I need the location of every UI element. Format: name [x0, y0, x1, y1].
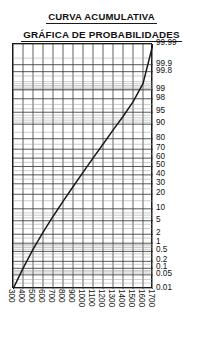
probability-tick-label: 30	[156, 179, 165, 187]
value-tick-label: 800	[57, 289, 65, 303]
probability-tick-label: 10	[156, 204, 165, 212]
chart-grid-and-curve	[13, 44, 153, 289]
value-tick-label: 1300	[107, 289, 115, 307]
value-tick-label: 1000	[77, 289, 85, 307]
value-tick-label: 1700	[147, 289, 155, 307]
plot-area	[12, 43, 152, 288]
probability-tick-label: 0.05	[156, 270, 172, 278]
probability-axis-labels: 99.9999.999.8999895908070605040302010521…	[154, 43, 203, 301]
probability-tick-label: 20	[156, 189, 165, 197]
probability-tick-label: 0.5	[156, 246, 167, 254]
chart-title-line-1: CURVA ACUMULATIVA	[46, 11, 157, 24]
probability-tick-label: 5	[156, 216, 161, 224]
probability-tick-label: 40	[156, 170, 165, 178]
probability-tick-label: 2	[156, 229, 161, 237]
value-tick-label: 1500	[127, 289, 135, 307]
probability-tick-label: 99.8	[156, 67, 172, 75]
value-tick-label: 1200	[97, 289, 105, 307]
value-tick-label: 1600	[137, 289, 145, 307]
probability-tick-label: 99.99	[156, 39, 177, 47]
value-tick-label: 1400	[117, 289, 125, 307]
value-axis-labels: 3004005006007008009001000110012001300140…	[12, 289, 162, 341]
value-tick-label: 500	[27, 289, 35, 303]
probability-tick-label: 80	[156, 134, 165, 142]
probability-chart-page: CURVA ACUMULATIVA GRÁFICA DE PROBABILIDA…	[0, 0, 203, 341]
chart-title: CURVA ACUMULATIVA GRÁFICA DE PROBABILIDA…	[0, 6, 203, 42]
probability-tick-label: 90	[156, 119, 165, 127]
value-tick-label: 600	[37, 289, 45, 303]
value-tick-label: 1100	[87, 289, 95, 307]
probability-tick-label: 99	[156, 85, 165, 93]
value-tick-label: 300	[7, 289, 15, 303]
value-tick-label: 700	[47, 289, 55, 303]
probability-tick-label: 95	[156, 107, 165, 115]
value-tick-label: 900	[67, 289, 75, 303]
value-tick-label: 400	[17, 289, 25, 303]
probability-tick-label: 98	[156, 94, 165, 102]
